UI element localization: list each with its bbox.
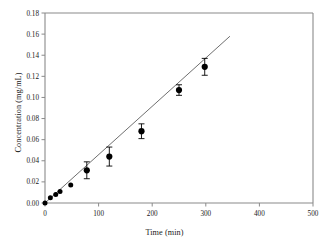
regression-line <box>45 36 230 203</box>
y-tick-label: 0.06 <box>26 136 39 144</box>
y-tick-label: 0.14 <box>26 52 39 60</box>
data-point <box>58 189 63 194</box>
data-point <box>138 128 144 134</box>
data-point <box>43 201 48 206</box>
data-point <box>53 192 58 197</box>
data-point <box>106 153 112 159</box>
data-point <box>202 64 208 70</box>
x-tick-label: 300 <box>200 210 211 218</box>
scatter-plot-canvas: 0.000.020.040.060.080.100.120.140.160.18… <box>0 0 329 247</box>
x-tick-label: 500 <box>308 210 319 218</box>
y-tick-label: 0.12 <box>26 73 39 81</box>
data-point <box>68 183 73 188</box>
y-tick-label: 0.02 <box>26 178 39 186</box>
y-tick-label: 0.18 <box>26 10 39 18</box>
x-axis-title: Time (min) <box>0 228 329 237</box>
error-bar-group <box>84 58 208 178</box>
plot-frame <box>45 13 313 203</box>
data-point <box>176 87 182 93</box>
y-tick-label: 0.00 <box>26 200 39 208</box>
data-point <box>84 167 90 173</box>
x-tick-label: 200 <box>147 210 158 218</box>
data-point-group <box>43 64 208 206</box>
y-tick-label: 0.08 <box>26 115 39 123</box>
data-point <box>48 195 53 200</box>
x-tick-label: 100 <box>93 210 104 218</box>
y-tick-label: 0.16 <box>26 31 39 39</box>
x-tick-label: 0 <box>43 210 47 218</box>
y-tick-label: 0.10 <box>26 94 39 102</box>
y-tick-group: 0.000.020.040.060.080.100.120.140.160.18 <box>26 10 45 208</box>
y-axis-title: Concentration (mg/mL) <box>14 38 23 188</box>
y-tick-label: 0.04 <box>26 157 39 165</box>
chart-figure: 0.000.020.040.060.080.100.120.140.160.18… <box>0 0 329 247</box>
x-tick-group: 0100200300400500 <box>43 203 319 218</box>
x-tick-label: 400 <box>254 210 265 218</box>
